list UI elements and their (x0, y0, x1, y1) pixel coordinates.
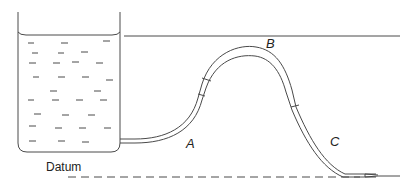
water-surface (18, 32, 120, 35)
nozzle (365, 174, 378, 177)
water-hatching (28, 41, 113, 142)
siphon-tube-inner (120, 56, 376, 177)
siphon-tube-outer (120, 46, 376, 174)
label-datum: Datum (46, 160, 81, 174)
tank (18, 12, 120, 152)
label-b: B (266, 36, 275, 51)
label-c: C (330, 134, 340, 149)
tube-joint-right (291, 105, 299, 107)
label-a: A (185, 136, 195, 151)
siphon-diagram: B A C Datum (0, 0, 417, 186)
